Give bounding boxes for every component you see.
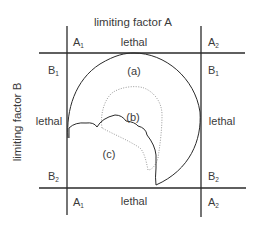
corner-label-bottom-left-a: A1 [73, 196, 84, 209]
corner-label-top-left-a: A1 [73, 36, 84, 49]
axis-title-factor-a: limiting factor A [94, 16, 172, 28]
lethal-label-right: lethal [209, 115, 235, 127]
corner-label-top-right-a: A2 [208, 36, 219, 49]
lethal-label-left: lethal [36, 115, 62, 127]
corner-label-bottom-left-b: B2 [48, 170, 59, 183]
axis-title-factor-b: limiting factor B [11, 82, 23, 161]
corner-label-bottom-right-a: A2 [208, 196, 219, 209]
lethal-label-top: lethal [121, 36, 147, 48]
region-label-c: (c) [103, 148, 116, 160]
tolerance-diagram: limiting factor A limiting factor B leth… [0, 0, 266, 237]
region-label-b: (b) [126, 111, 139, 123]
corner-label-top-left-b: B1 [48, 64, 59, 77]
region-label-a: (a) [127, 65, 140, 77]
corner-label-bottom-right-b: B2 [208, 170, 219, 183]
corner-label-top-right-b: B1 [208, 64, 219, 77]
lethal-label-bottom: lethal [121, 195, 147, 207]
